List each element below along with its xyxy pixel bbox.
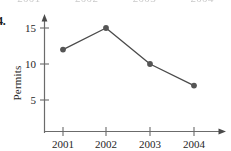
y-tick-label-15: 15 <box>25 22 37 34</box>
line-chart-figure: 2001 2002 2003 2004 4. Permits 15 10 5 <box>0 0 231 151</box>
x-tick-label-2004: 2004 <box>183 138 206 150</box>
x-tick-label-2003: 2003 <box>139 138 162 150</box>
data-point-2003 <box>147 61 153 67</box>
y-tick-label-10: 10 <box>25 58 37 70</box>
x-axis-ticks-group: 2001 2002 2003 2004 <box>52 127 206 150</box>
data-point-2002 <box>103 25 109 31</box>
chart-plot-area: 15 10 5 2001 2002 2003 2004 <box>0 0 231 151</box>
x-tick-label-2001: 2001 <box>52 138 74 150</box>
data-series-permits <box>60 25 197 88</box>
y-tick-label-5: 5 <box>31 94 37 106</box>
x-tick-label-2002: 2002 <box>95 138 117 150</box>
y-axis-ticks-group: 15 10 5 <box>25 22 49 106</box>
data-point-2004 <box>191 83 197 89</box>
y-axis-arrowhead <box>42 14 48 22</box>
data-line <box>63 28 194 86</box>
x-axis-arrowhead <box>219 129 227 135</box>
axes-group <box>42 14 226 134</box>
data-point-2001 <box>60 47 66 53</box>
